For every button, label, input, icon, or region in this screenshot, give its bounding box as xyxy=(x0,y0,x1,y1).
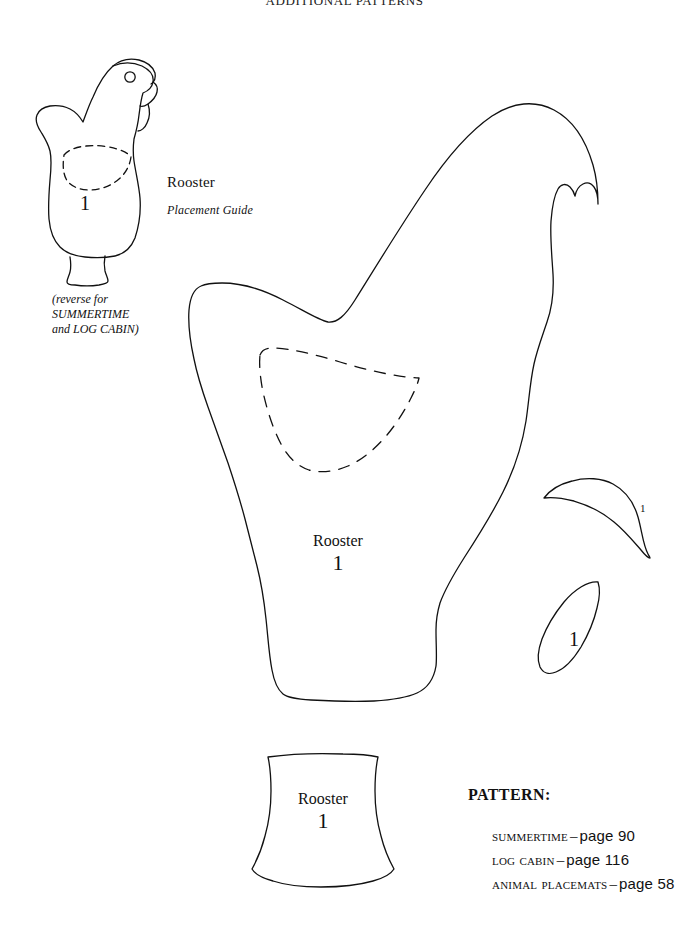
pattern-entry-summertime: Summertime–page 90 xyxy=(492,824,675,848)
pattern-reference-list: Summertime–page 90 Log Cabin–page 116 An… xyxy=(492,824,675,896)
main-rooster-body-outline xyxy=(189,104,598,702)
pattern-entry-name: Log Cabin xyxy=(492,851,555,868)
crescent-piece-outline xyxy=(544,479,650,558)
base-piece-label: Rooster 1 xyxy=(253,790,393,834)
reverse-note-line-3: and LOG CABIN) xyxy=(52,322,139,337)
placement-guide-title: Rooster xyxy=(167,174,215,191)
reverse-note: (reverse for SUMMERTIME and LOG CABIN) xyxy=(52,292,139,337)
placement-guide-subtitle: Placement Guide xyxy=(167,203,253,218)
teardrop-piece-number: 1 xyxy=(569,628,579,651)
pattern-entry-name: Summertime xyxy=(492,827,568,844)
pattern-entry-name: Animal Placemats xyxy=(492,875,607,892)
pattern-entry-separator: – xyxy=(607,876,619,892)
main-rooster-piece-number: 1 xyxy=(268,550,408,576)
guide-rooster-outline xyxy=(36,63,153,258)
pattern-entry-animal-placemats: Animal Placemats–page 58 xyxy=(492,872,675,896)
base-piece-number: 1 xyxy=(253,808,393,834)
crescent-piece-number: 1 xyxy=(640,502,646,514)
pattern-entry-page: page 58 xyxy=(619,875,675,892)
reverse-note-line-2: SUMMERTIME xyxy=(52,307,139,322)
pattern-section-heading: PATTERN: xyxy=(468,786,551,804)
base-piece-title: Rooster xyxy=(253,790,393,808)
guide-rooster-wing-dashes xyxy=(63,146,131,190)
pattern-entry-separator: – xyxy=(568,828,580,844)
guide-rooster-piece-number: 1 xyxy=(80,192,90,215)
main-rooster-label: Rooster 1 xyxy=(268,532,408,576)
main-rooster-title: Rooster xyxy=(268,532,408,550)
pattern-sheet-page: ADDITIONAL PATTERNS Rooster Placement Gu… xyxy=(0,0,689,935)
guide-rooster-base-piece xyxy=(67,256,108,286)
pattern-entry-log-cabin: Log Cabin–page 116 xyxy=(492,848,675,872)
guide-rooster-eye xyxy=(125,72,135,82)
reverse-note-line-1: (reverse for xyxy=(52,292,139,307)
pattern-entry-page: page 90 xyxy=(579,827,635,844)
pattern-entry-separator: – xyxy=(555,852,567,868)
pattern-entry-page: page 116 xyxy=(566,851,629,868)
main-rooster-wing-dashes xyxy=(260,348,419,472)
